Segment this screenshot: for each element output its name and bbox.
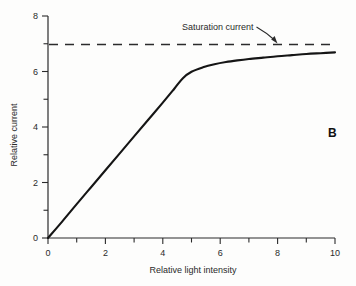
x-tick-label-6: 6	[218, 248, 223, 258]
saturation-current-label: Saturation current	[182, 22, 254, 32]
annotation-arrow-line	[257, 27, 275, 40]
x-tick-label-10: 10	[330, 248, 340, 258]
x-axis-title: Relative light intensity	[149, 265, 237, 275]
y-tick-label-8: 8	[33, 11, 38, 21]
y-tick-label-6: 6	[33, 67, 38, 77]
y-axis-title: Relative current	[9, 103, 19, 167]
photocurrent-curve	[48, 52, 335, 238]
figure-panel-b: 0 2 4 6 8 0 2 4 6 8 10 Relative light in…	[0, 0, 356, 286]
x-tick-label-4: 4	[160, 248, 165, 258]
chart-canvas: 0 2 4 6 8 0 2 4 6 8 10 Relative light in…	[0, 0, 356, 286]
y-tick-label-2: 2	[33, 178, 38, 188]
y-tick-label-0: 0	[33, 233, 38, 243]
x-tick-label-2: 2	[103, 248, 108, 258]
y-tick-label-4: 4	[33, 122, 38, 132]
panel-letter-b: B	[328, 126, 337, 140]
x-tick-label-8: 8	[275, 248, 280, 258]
x-tick-label-0: 0	[45, 248, 50, 258]
